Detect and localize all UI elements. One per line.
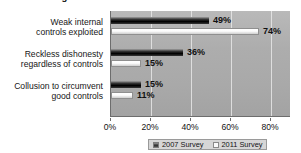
x-tick-mark (110, 118, 111, 121)
legend-item-2011: 2011 Survey (213, 140, 263, 149)
chart-legend: 2007 Survey 2011 Survey (148, 139, 267, 150)
gridline (231, 11, 232, 116)
bar-value-label: 15% (145, 59, 163, 68)
legend-label: 2011 Survey (222, 140, 263, 149)
bar-value-label: 11% (137, 91, 155, 100)
x-tick-mark (190, 118, 191, 121)
bar-s2007-1 (111, 49, 183, 56)
bar-value-label: 15% (145, 80, 163, 89)
category-label-line: regardless of controls (0, 60, 103, 70)
bar-value-label: 49% (213, 16, 231, 25)
bar-value-label: 74% (263, 27, 281, 36)
bar-chart-figure: Percent citing these most common reasons… (0, 0, 301, 153)
category-label-collusion-circumvent: Collusion to circumvent good controls (0, 82, 103, 101)
x-tick-label: 0% (104, 122, 116, 132)
x-tick-label: 60% (221, 122, 238, 132)
category-label-line: controls exploited (0, 28, 103, 38)
bar-s2007-0 (111, 17, 209, 24)
x-tick-label: 20% (141, 122, 158, 132)
light-swatch-icon (213, 142, 219, 148)
bar-s2007-2 (111, 81, 141, 88)
category-label-reckless-dishonesty: Reckless dishonesty regardless of contro… (0, 50, 103, 69)
plot-inner: 49%74%36%15%15%11% (111, 11, 290, 116)
x-tick-label: 80% (261, 122, 278, 132)
category-label-weak-internal-controls: Weak internal controls exploited (0, 18, 103, 37)
x-axis: 0%20%40%60%80% (110, 118, 291, 132)
bar-value-label: 36% (187, 48, 205, 57)
chart-title: Percent citing these most common reasons… (0, 0, 301, 2)
x-tick-mark (150, 118, 151, 121)
x-tick-label: 40% (181, 122, 198, 132)
category-label-line: good controls (0, 92, 103, 102)
bar-s2011-1 (111, 60, 141, 67)
plot-area: 49%74%36%15%15%11% (110, 11, 290, 117)
bar-s2011-2 (111, 92, 133, 99)
legend-label: 2007 Survey (162, 140, 204, 149)
dark-swatch-icon (153, 142, 159, 148)
category-axis-labels: Weak internal controls exploited Reckles… (0, 12, 106, 112)
x-tick-mark (270, 118, 271, 121)
bar-s2011-0 (111, 28, 259, 35)
x-tick-mark (230, 118, 231, 121)
legend-item-2007: 2007 Survey (153, 140, 204, 149)
gridline (191, 11, 192, 116)
